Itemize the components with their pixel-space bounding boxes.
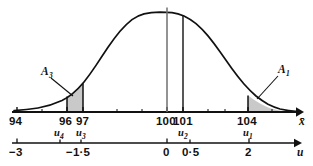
normal-distribution-figure <box>0 0 313 166</box>
leader-line-A1 <box>257 76 278 99</box>
x-axis-arrowhead <box>296 107 304 117</box>
shaded-region-A3 <box>67 83 83 112</box>
leader-line-A3 <box>51 78 73 96</box>
normal-curve <box>14 12 298 111</box>
u-axis-arrowhead <box>294 139 302 147</box>
